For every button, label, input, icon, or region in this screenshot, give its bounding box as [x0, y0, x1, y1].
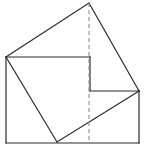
geometry-diagram: [0, 0, 146, 165]
figure-container: [0, 0, 146, 165]
